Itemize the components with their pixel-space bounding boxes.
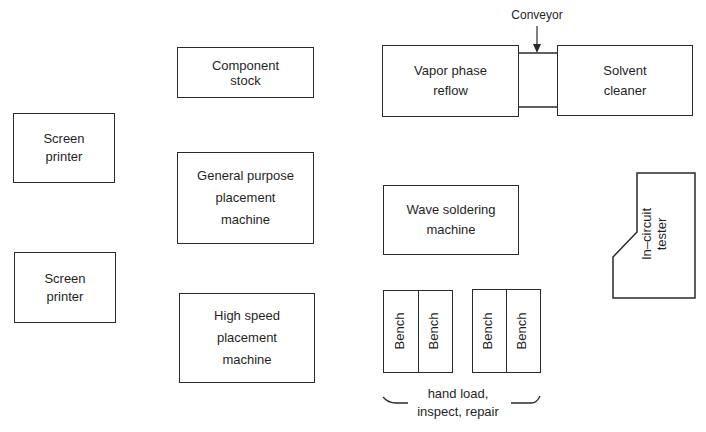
- general-purpose-placement-label: General purpose placement machine: [197, 165, 294, 231]
- wave-soldering-label: Wave soldering machine: [406, 200, 495, 240]
- bench-2-label: Bench: [426, 301, 444, 361]
- bench-4-label: Bench: [514, 301, 532, 361]
- component-stock-label: Component stock: [212, 58, 279, 88]
- floor-layout-diagram: Screen printer Screen printer Component …: [0, 0, 706, 432]
- general-purpose-placement-box: General purpose placement machine: [177, 152, 314, 244]
- conveyor-arrow-icon: [533, 26, 541, 53]
- solvent-cleaner-box: Solvent cleaner: [557, 45, 693, 116]
- bench-3-label: Bench: [480, 301, 498, 361]
- wave-soldering-box: Wave soldering machine: [383, 185, 519, 255]
- in-circuit-tester-label: In–circuit tester: [639, 189, 671, 279]
- bench-group-label: hand load, inspect, repair: [402, 385, 514, 421]
- conveyor-label: Conveyor: [500, 6, 574, 24]
- conveyor-connector: [518, 53, 558, 107]
- screen-printer-1-box: Screen printer: [13, 113, 115, 183]
- bench-1-label: Bench: [392, 301, 410, 361]
- high-speed-placement-label: High speed placement machine: [214, 305, 280, 371]
- component-stock-box: Component stock: [177, 47, 314, 98]
- screen-printer-2-box: Screen printer: [14, 252, 116, 323]
- vapor-phase-reflow-label: Vapor phase reflow: [414, 61, 487, 101]
- screen-printer-2-label: Screen printer: [44, 270, 85, 306]
- solvent-cleaner-label: Solvent cleaner: [603, 61, 646, 101]
- screen-printer-1-label: Screen printer: [43, 130, 84, 166]
- high-speed-placement-box: High speed placement machine: [179, 293, 315, 383]
- vapor-phase-reflow-box: Vapor phase reflow: [382, 45, 519, 117]
